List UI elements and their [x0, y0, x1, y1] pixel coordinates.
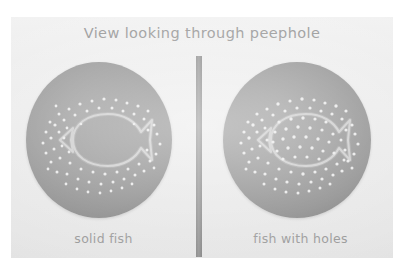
fish-outline-holes — [258, 114, 350, 166]
caption-fish-with-holes: fish with holes — [208, 231, 393, 246]
pinhole-field-outside-fish — [42, 97, 162, 194]
figure-title: View looking through peephole — [11, 25, 393, 41]
vertical-separator — [196, 56, 202, 257]
disc-fish-with-holes — [223, 62, 371, 218]
photo-plate: View looking through peephole — [11, 17, 393, 258]
solid-fish-diagram — [26, 62, 172, 218]
pinhole-field-full — [239, 97, 359, 194]
caption-solid-fish: solid fish — [11, 231, 196, 246]
disc-solid-fish — [26, 62, 172, 218]
fish-outline-solid — [60, 114, 152, 166]
fish-with-holes-diagram — [223, 62, 371, 218]
peephole-figure: View looking through peephole — [0, 0, 407, 274]
